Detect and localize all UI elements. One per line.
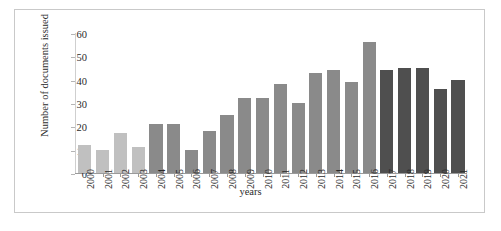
bar[interactable] (451, 80, 464, 173)
bar-slot (449, 33, 467, 173)
bar[interactable] (398, 68, 411, 173)
bar-slot (360, 33, 378, 173)
bar-slot (431, 33, 449, 173)
bar-slot (76, 33, 94, 173)
bar-slot (307, 33, 325, 173)
bar[interactable] (274, 84, 287, 173)
bar[interactable] (149, 124, 162, 173)
bar-slot (165, 33, 183, 173)
bar-slot (289, 33, 307, 173)
bar-slot (396, 33, 414, 173)
x-axis-title: years (15, 186, 486, 197)
y-tick-mark (71, 81, 75, 82)
bar[interactable] (363, 42, 376, 173)
bar[interactable] (309, 73, 322, 173)
bar-slot (200, 33, 218, 173)
bar-slot (342, 33, 360, 173)
bar[interactable] (167, 124, 180, 173)
bar-slot (254, 33, 272, 173)
bar[interactable] (292, 103, 305, 173)
y-tick-mark (71, 34, 75, 35)
bar[interactable] (416, 68, 429, 173)
bar-slot (112, 33, 130, 173)
bar[interactable] (327, 70, 340, 173)
bar-slot (94, 33, 112, 173)
bar-slot (325, 33, 343, 173)
bar-slot (236, 33, 254, 173)
bar-slot (183, 33, 201, 173)
bar-slot (378, 33, 396, 173)
bar-slot (271, 33, 289, 173)
bar-slot (147, 33, 165, 173)
y-tick-mark (71, 174, 75, 175)
bar[interactable] (238, 98, 251, 173)
bar-slot (414, 33, 432, 173)
bar-slot (218, 33, 236, 173)
bar-slot (129, 33, 147, 173)
plot-area: 0102030405060 (75, 33, 467, 174)
bar[interactable] (345, 82, 358, 173)
bar[interactable] (203, 131, 216, 173)
bar[interactable] (380, 70, 393, 173)
y-tick-mark (71, 104, 75, 105)
bar[interactable] (114, 133, 127, 173)
y-tick-mark (71, 127, 75, 128)
chart-figure: Number of documents issued 0102030405060… (14, 9, 485, 213)
y-tick-mark (71, 151, 75, 152)
bar-series (76, 33, 467, 173)
bar[interactable] (256, 98, 269, 173)
y-tick-mark (71, 57, 75, 58)
bar[interactable] (434, 89, 447, 173)
bar[interactable] (220, 115, 233, 173)
